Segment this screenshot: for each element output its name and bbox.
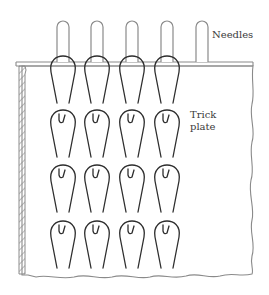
trick-plate-label-line2: plate: [190, 121, 230, 133]
trick-plate-label-line1: Trick: [190, 109, 230, 121]
trick-plate: [22, 66, 253, 278]
knitting-diagram: [0, 0, 269, 295]
needles-label: Needles: [212, 29, 253, 41]
needle-5: [196, 21, 208, 62]
trick-plate-label: Trick plate: [190, 109, 230, 133]
hatched-edge: [19, 66, 26, 274]
